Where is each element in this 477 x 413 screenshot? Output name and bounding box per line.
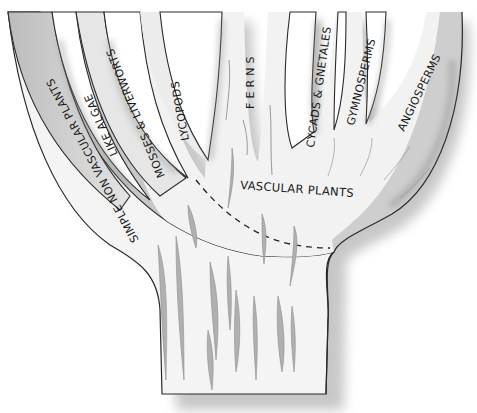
plant-evolution-tree-diagram: SIMPLE NON VASCULAR PLANTS LIKE ALGAE MO… <box>0 0 477 413</box>
label-ferns: F E R N S <box>244 56 257 109</box>
